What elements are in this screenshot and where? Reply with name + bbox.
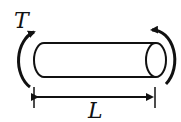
shaft-cylinder (34, 43, 166, 77)
length-label: L (87, 98, 103, 122)
left-torque-arrow (19, 32, 34, 87)
right-torque-arrow (152, 30, 175, 84)
torque-label: T (14, 8, 31, 33)
shaft-torsion-diagram: T L (0, 0, 181, 122)
